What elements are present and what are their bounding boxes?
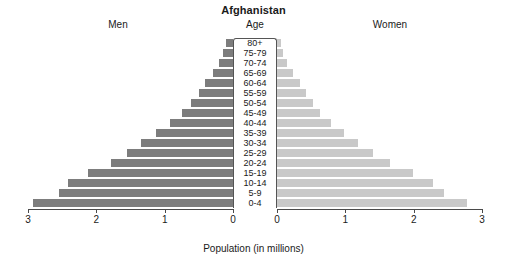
women-bar-row (277, 48, 482, 59)
women-bar-row (277, 98, 482, 109)
men-bar-5-9 (59, 189, 233, 197)
men-bar-row (28, 168, 233, 179)
x-tick-label: 0 (221, 214, 245, 225)
women-bar-50-54 (277, 99, 313, 107)
x-tick (233, 209, 234, 213)
men-bar-55-59 (199, 89, 233, 97)
men-bar-row (28, 148, 233, 159)
age-label-65-69: 65-69 (233, 68, 277, 79)
x-tick-label: 3 (470, 214, 494, 225)
age-label-35-39: 35-39 (233, 128, 277, 139)
women-bar-80+ (277, 39, 281, 47)
age-label-30-34: 30-34 (233, 138, 277, 149)
x-tick-label: 0 (265, 214, 289, 225)
women-bar-row (277, 158, 482, 169)
women-bar-5-9 (277, 189, 444, 197)
women-bar-row (277, 128, 482, 139)
men-bar-40-44 (170, 119, 233, 127)
x-tick-label: 2 (402, 214, 426, 225)
men-column-header: Men (78, 19, 158, 30)
men-bar-row (28, 58, 233, 69)
age-label-20-24: 20-24 (233, 158, 277, 169)
x-tick (277, 209, 278, 213)
women-bar-35-39 (277, 129, 344, 137)
men-bar-60-64 (205, 79, 233, 87)
men-bar-30-34 (141, 139, 233, 147)
men-bar-row (28, 128, 233, 139)
age-label-60-64: 60-64 (233, 78, 277, 89)
women-bar-15-19 (277, 169, 413, 177)
men-bar-75-79 (223, 49, 233, 57)
chart-title: Afghanistan (0, 4, 507, 16)
men-bar-65-69 (213, 69, 234, 77)
age-label-75-79: 75-79 (233, 48, 277, 59)
women-bar-row (277, 198, 482, 209)
women-bar-70-74 (277, 59, 287, 67)
women-bars-panel (277, 38, 482, 219)
men-bar-row (28, 78, 233, 89)
age-label-5-9: 5-9 (233, 188, 277, 199)
age-label-40-44: 40-44 (233, 118, 277, 129)
age-column-header: Age (215, 19, 295, 30)
age-label-15-19: 15-19 (233, 168, 277, 179)
women-bar-75-79 (277, 49, 283, 57)
age-label-column: 80+75-7970-7465-6960-6455-5950-5445-4940… (233, 38, 277, 208)
x-tick-label: 1 (333, 214, 357, 225)
men-bars-panel (28, 38, 233, 219)
women-bar-row (277, 178, 482, 189)
x-axis-men (28, 209, 233, 210)
women-bar-20-24 (277, 159, 390, 167)
population-pyramid-chart: Afghanistan Men Age Women 80+75-7970-746… (0, 0, 507, 269)
men-bar-80+ (226, 39, 233, 47)
women-bar-65-69 (277, 69, 293, 77)
women-bar-10-14 (277, 179, 433, 187)
women-bar-60-64 (277, 79, 300, 87)
men-bar-row (28, 158, 233, 169)
x-tick-label: 2 (84, 214, 108, 225)
women-bar-row (277, 78, 482, 89)
age-label-80+: 80+ (233, 38, 277, 49)
women-bar-row (277, 138, 482, 149)
age-label-0-4: 0-4 (233, 198, 277, 209)
x-tick (482, 209, 483, 213)
women-bar-row (277, 188, 482, 199)
men-bar-row (28, 118, 233, 129)
age-label-45-49: 45-49 (233, 108, 277, 119)
women-bar-row (277, 118, 482, 129)
x-axis-women (277, 209, 482, 210)
women-bar-55-59 (277, 89, 306, 97)
age-label-10-14: 10-14 (233, 178, 277, 189)
men-bar-25-29 (127, 149, 233, 157)
men-bar-row (28, 108, 233, 119)
men-bar-row (28, 138, 233, 149)
men-bar-15-19 (88, 169, 233, 177)
men-bar-row (28, 188, 233, 199)
men-bar-0-4 (33, 199, 233, 207)
men-bar-70-74 (219, 59, 233, 67)
men-bar-row (28, 68, 233, 79)
men-bar-10-14 (68, 179, 233, 187)
x-tick (96, 209, 97, 213)
men-bar-50-54 (191, 99, 233, 107)
women-bar-40-44 (277, 119, 331, 127)
men-bar-row (28, 48, 233, 59)
women-bar-row (277, 88, 482, 99)
x-tick (165, 209, 166, 213)
men-bar-row (28, 178, 233, 189)
women-bar-0-4 (277, 199, 467, 207)
x-tick (28, 209, 29, 213)
x-tick-label: 3 (16, 214, 40, 225)
men-bar-row (28, 38, 233, 49)
x-tick (345, 209, 346, 213)
women-bar-row (277, 108, 482, 119)
age-label-25-29: 25-29 (233, 148, 277, 159)
age-label-55-59: 55-59 (233, 88, 277, 99)
age-label-50-54: 50-54 (233, 98, 277, 109)
women-bar-row (277, 38, 482, 49)
x-tick-label: 1 (153, 214, 177, 225)
age-label-70-74: 70-74 (233, 58, 277, 69)
women-bar-45-49 (277, 109, 320, 117)
women-column-header: Women (350, 19, 430, 30)
men-bar-45-49 (182, 109, 233, 117)
women-bar-25-29 (277, 149, 373, 157)
